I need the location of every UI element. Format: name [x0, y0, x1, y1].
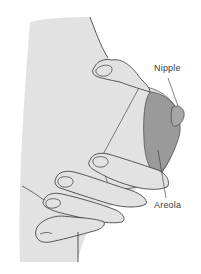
nipple-shape: [171, 106, 184, 126]
areola-label: Areola: [154, 200, 181, 210]
breast-hold-illustration: [0, 0, 201, 274]
areola-shape: [144, 92, 181, 176]
nipple-label: Nipple: [154, 63, 181, 73]
